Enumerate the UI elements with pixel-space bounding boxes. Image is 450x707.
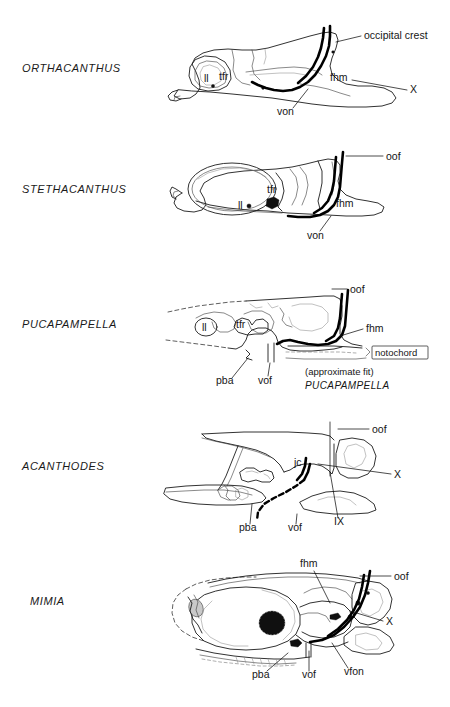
drawing-pucapampella: oof ll tfr fhm notochord pba vof (approx… (0, 270, 450, 410)
label-oof: oof (372, 423, 387, 435)
notochord-bracket (366, 348, 370, 356)
label-oof: oof (394, 570, 409, 582)
leader-x (318, 464, 391, 474)
label-vof: vof (258, 374, 272, 386)
panel-orthacanthus: ORTHACANTHUS (0, 0, 450, 135)
leader-von (320, 216, 331, 231)
label-jc: jc (293, 456, 302, 468)
panel-stethacanthus: STETHACANTHUS (0, 135, 450, 270)
label-pba: pba (239, 521, 257, 533)
label-x: X (386, 615, 393, 627)
label-pba: pba (216, 374, 234, 386)
label-fhm: fhm (300, 557, 318, 569)
label-von: von (307, 229, 324, 241)
drawing-acanthodes: oof jc X IX pba vof (0, 410, 450, 545)
label-ix: IX (334, 515, 344, 527)
panel-mimia: MIMIA (0, 545, 450, 707)
label-von: von (277, 105, 294, 117)
panel-acanthodes: ACANTHODES (0, 410, 450, 545)
label-oof: oof (350, 283, 365, 295)
label-x: X (394, 468, 401, 480)
label-ll: ll (238, 199, 243, 211)
label-ll: ll (204, 72, 209, 84)
label-ll: ll (202, 321, 207, 333)
leader-pba (232, 358, 248, 378)
label-occipital-crest: occipital crest (364, 29, 428, 41)
figure-page: ORTHACANTHUS (0, 0, 450, 707)
drawing-mimia: fhm oof X pba vof vfon (0, 545, 450, 707)
label-pba: pba (252, 668, 270, 680)
label-x: X (410, 83, 417, 95)
leader-occipital-crest (336, 36, 361, 42)
caption-pucapampella: PUCAPAMPELLA (305, 380, 390, 391)
label-fhm: fhm (330, 71, 348, 83)
drawing-stethacanthus: oof tfr ll fhm von (0, 135, 450, 270)
label-vof: vof (288, 521, 302, 533)
leader-von (293, 89, 308, 108)
drawing-orthacanthus: occipital crest ll tfr fhm X von (0, 0, 450, 135)
label-tfr: tfr (267, 183, 277, 195)
caption-approximate-fit: (approximate fit) (305, 366, 374, 377)
label-fhm: fhm (366, 322, 384, 334)
leader-x (352, 80, 407, 90)
label-tfr: tfr (219, 70, 229, 82)
label-fhm: fhm (336, 197, 354, 209)
label-tfr: tfr (236, 318, 246, 330)
leader-ix (330, 472, 338, 518)
label-notochord: notochord (375, 347, 417, 358)
label-oof: oof (386, 150, 401, 162)
panel-pucapampella: PUCAPAMPELLA (0, 270, 450, 410)
